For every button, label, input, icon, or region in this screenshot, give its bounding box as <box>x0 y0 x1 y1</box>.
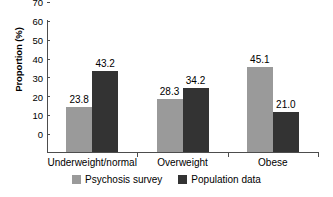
x-axis-category-label: Obese <box>258 157 287 168</box>
plot-area: 010203040506070 23.843.228.334.245.121.0 <box>47 20 318 152</box>
bar-value-label: 21.0 <box>276 99 295 110</box>
y-axis-tick: 60 <box>32 12 47 30</box>
legend-entry: Population data <box>178 174 261 185</box>
y-axis-tick: 20 <box>32 87 47 105</box>
bar-value-label: 43.2 <box>95 58 114 69</box>
bar-value-label: 28.3 <box>160 86 179 97</box>
x-axis-tick-mark <box>228 152 229 157</box>
y-axis-tick-mark <box>47 59 50 60</box>
legend-label: Psychosis survey <box>85 174 162 185</box>
y-axis-tick: 40 <box>32 50 47 68</box>
legend-entry: Psychosis survey <box>72 174 162 185</box>
y-axis-tick: 30 <box>32 68 47 86</box>
bar <box>157 99 183 152</box>
y-axis-tick-mark <box>47 134 50 135</box>
x-axis-line <box>47 152 319 153</box>
y-axis-tick-label: 60 <box>32 16 43 27</box>
x-axis-category-label: Overweight <box>157 157 208 168</box>
bar-value-label: 23.8 <box>69 94 88 105</box>
light-gray-swatch <box>72 175 81 184</box>
bar <box>273 112 299 152</box>
x-axis-tick-mark <box>318 152 319 157</box>
y-axis-tick-mark <box>47 96 50 97</box>
chart-legend: Psychosis surveyPopulation data <box>0 174 333 185</box>
y-axis-tick-label: 50 <box>32 35 43 46</box>
legend-label: Population data <box>191 174 261 185</box>
y-axis-tick-mark <box>47 77 50 78</box>
y-axis-tick-mark <box>47 2 50 3</box>
bar <box>183 88 209 152</box>
dark-gray-swatch <box>178 175 187 184</box>
y-axis-tick-label: 20 <box>32 92 43 103</box>
y-axis-tick-mark <box>47 115 50 116</box>
y-axis-tick-label: 10 <box>32 110 43 121</box>
bar <box>247 67 273 152</box>
y-axis-tick-label: 0 <box>38 129 43 140</box>
y-axis-tick: 70 <box>32 0 47 11</box>
y-axis-tick-mark <box>47 21 50 22</box>
y-axis-title: Proportion (%) <box>13 10 24 110</box>
y-axis-tick: 50 <box>32 31 47 49</box>
bar <box>92 71 118 152</box>
x-axis-tick-mark <box>137 152 138 157</box>
bar-value-label: 34.2 <box>186 75 205 86</box>
y-axis-tick-label: 70 <box>32 0 43 8</box>
y-axis-tick: 10 <box>32 106 47 124</box>
x-axis-category-label: Underweight/normal <box>47 157 137 168</box>
bar <box>66 107 92 152</box>
y-axis-tick: 0 <box>38 125 47 143</box>
y-axis-tick-label: 40 <box>32 54 43 65</box>
y-axis-tick-label: 30 <box>32 73 43 84</box>
bar-value-label: 45.1 <box>250 54 269 65</box>
y-axis-tick-mark <box>47 40 50 41</box>
bar-chart: Proportion (%) 010203040506070 23.843.22… <box>0 0 333 197</box>
